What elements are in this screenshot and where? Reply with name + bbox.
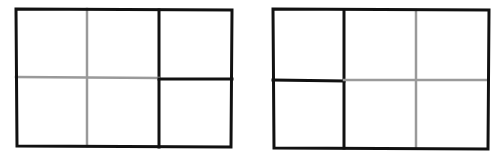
left-grid-figure (16, 9, 232, 147)
right-grid-figure (273, 9, 489, 149)
left-grid-h-gray-line (16, 77, 159, 78)
right-grid-h-black-line (273, 80, 344, 81)
diagram-canvas (0, 0, 495, 153)
